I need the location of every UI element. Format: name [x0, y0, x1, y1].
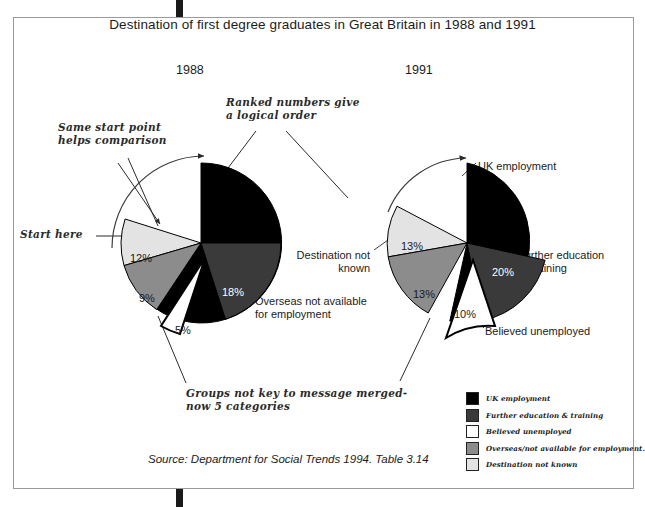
legend-swatch-further-education	[466, 409, 479, 422]
legend-label-believed-unemployed: Believed unemployed	[486, 427, 572, 436]
legend-swatch-believed-unemployed	[466, 425, 479, 438]
legend-swatch-destination-not-known	[466, 458, 479, 471]
legend-label-destination-not-known: Destination not known	[486, 460, 577, 469]
pie-chart-1988: 55% 18% 5% 9% 12%	[106, 148, 296, 338]
legend-label-uk-employment: UK employment	[486, 394, 550, 403]
figure-page: Destination of first degree graduates in…	[0, 0, 645, 507]
source-note: Source: Department for Social Trends 199…	[148, 453, 429, 465]
pie-1991-svg	[372, 148, 562, 338]
legend-item[interactable]: Further education & training	[466, 409, 616, 422]
legend-item[interactable]: Overseas/not available for employment.	[466, 442, 616, 455]
legend-swatch-overseas-not-available	[466, 442, 479, 455]
legend-item[interactable]: Destination not known	[466, 458, 616, 471]
pie-chart-1991: 44% 20% 10% 13% 13%	[372, 148, 562, 338]
legend-item[interactable]: Believed unemployed	[466, 425, 616, 438]
pie-1988-svg	[106, 148, 296, 338]
chart-legend: UK employment Further education & traini…	[466, 392, 616, 475]
legend-item[interactable]: UK employment	[466, 392, 616, 405]
legend-swatch-uk-employment	[466, 392, 479, 405]
legend-label-overseas-not-available: Overseas/not available for employment.	[486, 444, 645, 453]
legend-label-further-education: Further education & training	[486, 411, 603, 420]
